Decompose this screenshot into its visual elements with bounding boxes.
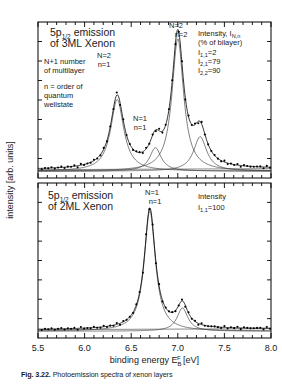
data-point bbox=[259, 165, 261, 167]
data-point bbox=[220, 327, 222, 329]
data-point bbox=[132, 312, 134, 314]
data-point bbox=[210, 325, 212, 327]
data-point bbox=[266, 326, 268, 328]
data-point bbox=[122, 118, 124, 120]
top-peak-label-1-line2: n=1 bbox=[98, 60, 111, 69]
data-point bbox=[165, 307, 167, 309]
data-point bbox=[148, 143, 150, 145]
data-point bbox=[155, 262, 157, 264]
data-point bbox=[262, 167, 264, 169]
data-point bbox=[57, 328, 59, 330]
data-point bbox=[161, 132, 163, 134]
data-point bbox=[139, 151, 141, 153]
top-panel-note2-line1: n = order of bbox=[44, 82, 83, 91]
data-point bbox=[77, 166, 79, 168]
data-point bbox=[83, 328, 85, 330]
data-point bbox=[256, 165, 258, 167]
data-point bbox=[204, 133, 206, 135]
bottom-panel-title-line2: of 2ML Xenon bbox=[48, 200, 113, 212]
top-panel-note2-line3: wellstate bbox=[43, 100, 73, 109]
data-point bbox=[158, 283, 160, 285]
data-point bbox=[201, 322, 203, 324]
data-point bbox=[119, 324, 121, 326]
data-point bbox=[233, 327, 235, 329]
xtick-label: 6.5 bbox=[125, 343, 138, 353]
data-point bbox=[210, 150, 212, 152]
data-point bbox=[70, 328, 72, 330]
data-point bbox=[223, 160, 225, 162]
data-point bbox=[243, 164, 245, 166]
y-axis-label: intensity [arb. units] bbox=[5, 141, 15, 219]
data-point bbox=[191, 318, 193, 320]
data-point bbox=[80, 326, 82, 328]
data-point bbox=[67, 327, 69, 329]
data-point bbox=[240, 328, 242, 330]
data-point bbox=[109, 325, 111, 327]
data-point bbox=[171, 311, 173, 313]
bottom-peak-label-1-line2: n=1 bbox=[149, 197, 162, 206]
data-point bbox=[99, 327, 101, 329]
data-point bbox=[246, 327, 248, 329]
data-point bbox=[178, 304, 180, 306]
data-point bbox=[93, 159, 95, 161]
data-point bbox=[90, 162, 92, 164]
data-point bbox=[47, 328, 49, 330]
xtick-label: 7.5 bbox=[218, 343, 231, 353]
data-point bbox=[174, 310, 176, 312]
data-point bbox=[158, 128, 160, 130]
data-point bbox=[249, 327, 251, 329]
x-axis-label: binding energy EBF [eV] bbox=[110, 355, 199, 367]
data-point bbox=[70, 166, 72, 168]
data-point bbox=[184, 306, 186, 308]
fit-component-1 bbox=[38, 211, 271, 331]
data-point bbox=[57, 167, 59, 169]
top-peak-label-3-line2: n=2 bbox=[175, 30, 188, 39]
data-point bbox=[73, 164, 75, 166]
data-point bbox=[129, 143, 131, 145]
data-point bbox=[194, 122, 196, 124]
data-point bbox=[109, 125, 111, 127]
xtick-label: 5.5 bbox=[32, 343, 45, 353]
data-point bbox=[47, 167, 49, 169]
data-point bbox=[96, 327, 98, 329]
data-point bbox=[125, 134, 127, 136]
data-point bbox=[233, 164, 235, 166]
data-point bbox=[269, 167, 271, 169]
data-point bbox=[207, 325, 209, 327]
data-point bbox=[145, 233, 147, 235]
data-point bbox=[197, 324, 199, 326]
top-panel-title-line2: of 3ML Xenon bbox=[50, 37, 115, 49]
data-point bbox=[243, 326, 245, 328]
data-point bbox=[119, 104, 121, 106]
data-point bbox=[54, 168, 56, 170]
data-point bbox=[129, 316, 131, 318]
data-point bbox=[41, 329, 43, 331]
fit-component-4 bbox=[38, 137, 271, 171]
data-point bbox=[197, 122, 199, 124]
data-point bbox=[256, 327, 258, 329]
data-point bbox=[227, 163, 229, 165]
data-point bbox=[112, 325, 114, 327]
top-peak-label-2-line1: N=1 bbox=[133, 114, 147, 123]
data-point bbox=[187, 311, 189, 313]
data-point bbox=[103, 147, 105, 149]
data-point bbox=[217, 158, 219, 160]
caption-text: Photoemission spectra of xenon layers bbox=[53, 370, 173, 379]
data-point bbox=[83, 164, 85, 166]
data-point bbox=[204, 325, 206, 327]
data-point bbox=[44, 328, 46, 330]
data-point bbox=[191, 124, 193, 126]
data-point bbox=[246, 165, 248, 167]
data-point bbox=[249, 166, 251, 168]
data-point bbox=[230, 326, 232, 328]
data-point bbox=[103, 325, 105, 327]
data-point bbox=[86, 162, 88, 164]
data-point bbox=[86, 327, 88, 329]
data-point bbox=[90, 327, 92, 329]
data-point bbox=[240, 166, 242, 168]
data-point bbox=[142, 152, 144, 154]
bottom-peak-label-1-line1: N=1 bbox=[145, 188, 159, 197]
data-points bbox=[41, 208, 271, 331]
data-point bbox=[116, 92, 118, 94]
figure-caption: Fig. 3.22. Photoemission spectra of xeno… bbox=[21, 370, 279, 379]
